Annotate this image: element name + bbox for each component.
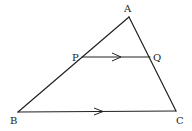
label-q: Q: [153, 52, 161, 63]
label-b: B: [10, 115, 17, 126]
side-bc: [18, 111, 176, 112]
triangle-diagram: A P Q B C: [0, 0, 192, 131]
label-p: P: [72, 52, 79, 63]
label-a: A: [123, 3, 132, 14]
side-ac: [129, 17, 176, 111]
side-ab: [18, 17, 129, 112]
label-c: C: [176, 115, 184, 126]
